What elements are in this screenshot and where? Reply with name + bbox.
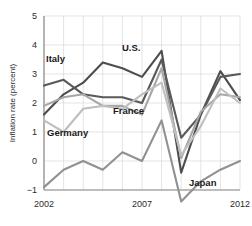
y-tick-label: 3 xyxy=(32,69,37,79)
series-label-germany: Germany xyxy=(47,127,89,138)
y-tick-label: 0 xyxy=(32,156,37,166)
y-tick-label: −1 xyxy=(27,185,37,195)
series-label-us: U.S. xyxy=(122,42,140,53)
y-tick-label: 5 xyxy=(32,11,37,21)
x-tick-label: 2012 xyxy=(230,199,250,209)
y-tick-label: 4 xyxy=(32,40,37,50)
y-axis-title: Inflation rate (percent) xyxy=(8,64,17,143)
chart-canvas: −1012345 200220072012 ItalyU.S.FranceGer… xyxy=(0,0,252,226)
x-tick-label: 2007 xyxy=(132,199,152,209)
inflation-rate-line-chart: −1012345 200220072012 ItalyU.S.FranceGer… xyxy=(0,0,252,226)
series-label-japan: Japan xyxy=(189,177,217,188)
series-label-italy: Italy xyxy=(46,53,66,64)
y-tick-label: 1 xyxy=(32,127,37,137)
x-tick-label: 2002 xyxy=(34,199,54,209)
y-tick-label: 2 xyxy=(32,98,37,108)
series-label-france: France xyxy=(113,105,144,116)
